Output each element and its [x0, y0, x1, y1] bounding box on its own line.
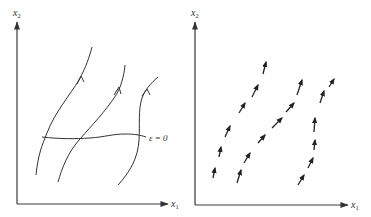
- vector-arrow: [329, 79, 334, 87]
- right-y-axis-label: x2: [190, 7, 199, 19]
- right-panel: x2 x1: [190, 7, 359, 211]
- vector-arrow: [252, 85, 258, 97]
- left-panel: x2 x1 ε = 0: [12, 7, 179, 210]
- vector-column-1: [213, 62, 266, 178]
- epsilon-zero-label: ε = 0: [149, 133, 168, 143]
- vector-arrow: [263, 62, 266, 74]
- vector-arrow: [320, 91, 324, 103]
- vector-arrow: [297, 80, 302, 95]
- vector-arrow: [258, 135, 265, 143]
- trajectory-1: [36, 47, 92, 175]
- vector-arrow: [286, 103, 294, 112]
- vector-arrow: [298, 175, 304, 185]
- vector-arrow: [239, 103, 245, 113]
- left-x-axis-label: x1: [170, 198, 179, 210]
- vector-arrow: [308, 158, 313, 168]
- epsilon-zero-curve: [42, 134, 146, 139]
- vector-arrow: [237, 170, 241, 183]
- vector-column-3: [298, 79, 334, 185]
- trajectory-3: [118, 77, 158, 185]
- vector-arrow: [314, 118, 315, 132]
- trajectory-1-arrow: [77, 76, 84, 84]
- vector-arrow: [213, 168, 215, 178]
- right-x-axis-label: x1: [350, 199, 359, 211]
- trajectory-2: [58, 65, 125, 182]
- vector-arrow: [219, 147, 221, 157]
- vector-arrow: [314, 140, 315, 150]
- vector-arrow: [225, 126, 230, 137]
- left-y-axis-label: x2: [12, 7, 21, 19]
- trajectory-3-arrow: [142, 89, 150, 96]
- vector-column-2: [237, 80, 302, 183]
- vector-arrow: [272, 118, 282, 128]
- diagram-canvas: x2 x1 ε = 0 x2 x1: [0, 0, 371, 217]
- vector-arrow: [244, 153, 250, 163]
